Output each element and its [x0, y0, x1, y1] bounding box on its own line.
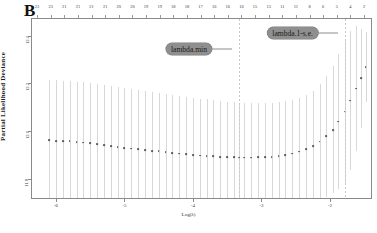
error-bar [159, 93, 160, 198]
y-axis-title: Partial Likelihood Deviance [0, 52, 11, 141]
top-axis-tick-label: 4 [349, 4, 351, 9]
y-axis: 12.412.212.011.8 [14, 18, 31, 199]
y-axis-tick-label: 12.0 [25, 131, 30, 139]
data-point [264, 156, 266, 158]
error-bar [272, 103, 273, 198]
error-bar [306, 95, 307, 198]
data-point [117, 146, 119, 148]
data-point [151, 150, 153, 152]
data-point [96, 143, 98, 145]
data-point [62, 140, 64, 142]
top-axis-tick-label: 16 [212, 4, 216, 9]
error-bar [265, 103, 266, 198]
data-point [185, 153, 187, 155]
error-bar [97, 84, 98, 198]
error-bar [90, 83, 91, 198]
vline-lambda.min [239, 19, 240, 198]
data-point [192, 154, 194, 156]
x-axis-tick-label: -5 [122, 203, 126, 208]
x-axis-tick-mark [193, 199, 194, 202]
data-point [69, 141, 71, 143]
data-point [360, 77, 362, 79]
top-axis-tick-label: 11 [294, 4, 298, 9]
data-point [312, 145, 314, 147]
error-bar [63, 81, 64, 198]
data-point [337, 121, 339, 123]
top-axis-tick-label: 20 [117, 4, 121, 9]
error-bar [299, 98, 300, 198]
error-bar [234, 102, 235, 198]
data-point [219, 156, 221, 158]
error-bar [179, 96, 180, 198]
cv-glmnet-figure: B 23232121212120201919181817161616151311… [0, 0, 377, 233]
top-axis-tick-label: 23 [35, 4, 39, 9]
error-bar [292, 100, 293, 198]
error-bar [145, 91, 146, 198]
data-point [171, 152, 173, 154]
top-axis-tick-label: 5 [336, 4, 338, 9]
top-axis-tick-label: 6 [322, 4, 324, 9]
error-bar [220, 101, 221, 198]
y-axis-tick-label: 11.8 [25, 179, 30, 187]
y-axis-tick-label: 12.2 [25, 83, 30, 91]
data-point [199, 155, 201, 157]
top-axis-tick-label: 16 [226, 4, 230, 9]
error-bar [77, 82, 78, 198]
data-point [226, 156, 228, 158]
annotation-leader-1 [318, 33, 338, 34]
data-point [206, 155, 208, 157]
data-point [350, 100, 352, 102]
top-axis-tick-label: 18 [171, 4, 175, 9]
y-axis-tick-mark [28, 83, 31, 84]
error-bar [193, 98, 194, 198]
top-axis-tick-label: 20 [130, 4, 134, 9]
annotation-label-0: lambda.min [166, 43, 212, 55]
data-point [355, 88, 357, 90]
data-point [319, 141, 321, 143]
data-point [291, 153, 293, 155]
error-bar [285, 101, 286, 198]
top-axis: 2323212121212020191918181716161615131111… [31, 4, 372, 18]
top-axis-tick-label: 11 [280, 4, 284, 9]
data-point [158, 151, 160, 153]
top-axis-tick-label: 19 [157, 4, 161, 9]
error-bar [70, 81, 71, 198]
data-point [365, 66, 367, 68]
x-axis-title: Log(λ) [0, 212, 377, 217]
top-axis-tick-label: 21 [103, 4, 107, 9]
data-point [326, 136, 328, 138]
annotation-leader-0 [212, 49, 232, 50]
error-bar [244, 103, 245, 198]
data-point [278, 155, 280, 157]
data-point [103, 144, 105, 146]
data-point [144, 149, 146, 151]
error-bar [111, 86, 112, 198]
top-axis-tick-label: 21 [62, 4, 66, 9]
annotation-label-1: lambda.1-s.e. [267, 27, 318, 39]
error-bar [200, 99, 201, 198]
top-axis-tick-label: 19 [144, 4, 148, 9]
error-bar [258, 103, 259, 198]
data-point [332, 129, 334, 131]
error-bar [166, 94, 167, 198]
error-bar [152, 92, 153, 198]
top-axis-tick-label: 23 [48, 4, 52, 9]
data-point [110, 145, 112, 147]
data-point [243, 157, 245, 159]
data-point [82, 142, 84, 144]
data-point [165, 151, 167, 153]
error-bar [213, 100, 214, 198]
data-point [55, 140, 57, 142]
data-point [130, 148, 132, 150]
x-axis-tick-label: -6 [54, 203, 58, 208]
data-point [178, 153, 180, 155]
data-point [48, 139, 50, 141]
x-axis-tick-label: -2 [328, 203, 332, 208]
x-axis-tick-mark [124, 199, 125, 202]
vline-lambda.1se [345, 19, 346, 198]
top-axis-tick-label: 18 [185, 4, 189, 9]
top-axis-tick-label: 17 [198, 4, 202, 9]
top-axis-tick-label: 21 [89, 4, 93, 9]
y-axis-tick-label: 12.4 [25, 36, 30, 44]
error-bar [227, 102, 228, 198]
